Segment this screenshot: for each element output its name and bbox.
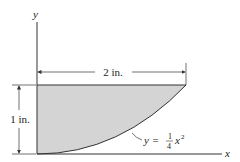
fraction-numerator: 1 [168, 132, 172, 141]
y-axis-label: y [32, 8, 38, 20]
equation-lhs: y = [143, 134, 159, 146]
equation-exponent: 2 [181, 133, 185, 141]
fraction-denominator: 4 [167, 142, 171, 151]
equation-variable: x [174, 134, 180, 146]
x-axis-label: x [224, 147, 230, 159]
equation-leader [132, 133, 142, 140]
diagram-canvas: y x 2 in. 1 in. y = 1 4 x 2 [0, 0, 240, 162]
width-dimension-label: 2 in. [103, 66, 123, 78]
shaded-area [37, 85, 186, 154]
height-dimension-label: 1 in. [10, 113, 30, 125]
